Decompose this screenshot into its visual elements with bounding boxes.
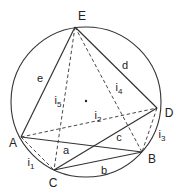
side-BA bbox=[21, 137, 142, 152]
vertex-label-E: E bbox=[78, 10, 86, 22]
vertex-label-D: D bbox=[165, 107, 174, 119]
edge-label-a: a bbox=[63, 145, 69, 156]
pentagon-diagram: E D B C A e d c b a i1 i2 i3 i4 i5 bbox=[0, 0, 183, 196]
diagonal-DB bbox=[142, 108, 157, 152]
edge-label-d: d bbox=[122, 60, 128, 71]
vertex-label-A: A bbox=[9, 137, 17, 149]
diagonal-label-i4: i4 bbox=[116, 82, 123, 96]
vertex-label-C: C bbox=[49, 177, 58, 189]
diagonal-AD bbox=[21, 108, 157, 137]
diagonal-EB bbox=[75, 27, 142, 152]
vertex-label-B: B bbox=[148, 153, 156, 165]
side-DC bbox=[54, 108, 157, 170]
edge-label-e: e bbox=[37, 73, 43, 84]
center-dot bbox=[85, 100, 87, 102]
solid-edges bbox=[21, 27, 157, 170]
diagonal-label-i2: i2 bbox=[95, 110, 102, 124]
edge-label-c: c bbox=[116, 132, 122, 143]
diagonal-label-i5: i5 bbox=[55, 95, 62, 109]
diagonal-label-i1: i1 bbox=[28, 157, 35, 171]
diagonal-label-i3: i3 bbox=[159, 129, 166, 143]
diagonal-AC bbox=[21, 137, 54, 170]
edge-label-b: b bbox=[101, 165, 107, 176]
